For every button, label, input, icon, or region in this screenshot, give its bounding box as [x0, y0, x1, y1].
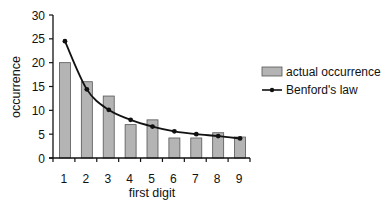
bar-digit-6 [169, 138, 180, 158]
y-tick-label: 20 [32, 56, 46, 70]
bar-digit-2 [81, 82, 92, 158]
benford-point-5 [150, 124, 155, 129]
benford-point-1 [63, 39, 68, 44]
y-axis-title: occurrence [9, 56, 23, 118]
x-tick-label: 7 [192, 172, 199, 186]
y-axis-ticks: 051015202530 [32, 9, 53, 166]
bars-actual-occurrence [59, 63, 245, 158]
legend-label-benford: Benford's law [286, 83, 358, 97]
y-tick-label: 5 [38, 128, 45, 142]
x-tick-label: 8 [214, 172, 221, 186]
y-tick-label: 30 [32, 9, 46, 23]
y-tick-label: 15 [32, 80, 46, 94]
y-tick-label: 10 [32, 104, 46, 118]
y-tick-label: 0 [38, 152, 45, 166]
x-tick-label: 6 [170, 172, 177, 186]
bar-digit-7 [191, 138, 202, 158]
benford-point-7 [194, 132, 199, 137]
bar-digit-4 [125, 125, 136, 158]
x-tick-label: 4 [126, 172, 133, 186]
x-tick-label: 2 [82, 172, 89, 186]
x-tick-label: 3 [104, 172, 111, 186]
bar-digit-3 [103, 96, 114, 158]
legend-label-actual: actual occurrence [286, 65, 381, 79]
benford-chart: 051015202530 123456789 occurrence first … [0, 0, 391, 216]
x-axis-title: first digit [129, 186, 176, 200]
x-tick-label: 9 [236, 172, 243, 186]
legend-swatch-marker [270, 88, 274, 92]
benford-point-3 [106, 107, 111, 112]
x-tick-label: 5 [148, 172, 155, 186]
benford-point-4 [128, 117, 133, 122]
benford-point-2 [84, 87, 89, 92]
legend-swatch-bar [262, 67, 282, 76]
x-axis-ticks: 123456789 [53, 158, 250, 186]
benford-point-9 [238, 136, 243, 141]
y-tick-label: 25 [32, 32, 46, 46]
legend: actual occurrence Benford's law [262, 65, 381, 97]
benford-point-8 [216, 134, 221, 139]
bar-digit-1 [59, 63, 70, 158]
benford-point-6 [172, 129, 177, 134]
x-tick-label: 1 [61, 172, 68, 186]
